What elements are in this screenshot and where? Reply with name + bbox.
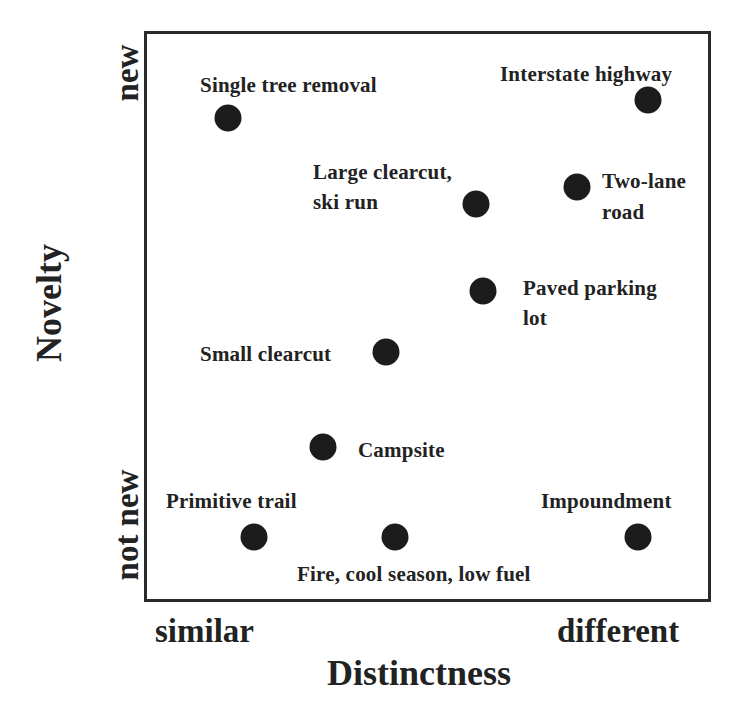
x-axis-title: Distinctness: [327, 653, 511, 693]
y-axis-title: Novelty: [29, 244, 69, 362]
y-low-label: not new: [109, 470, 145, 581]
point-small-clearcut: [373, 339, 400, 366]
point-campsite: [310, 434, 337, 461]
point-single-tree-removal: [215, 105, 242, 132]
y-high-label: new: [109, 45, 145, 102]
label-impoundment: Impoundment: [541, 486, 672, 516]
x-low-label: similar: [155, 613, 254, 649]
point-two-lane-road: [564, 174, 591, 201]
point-impoundment: [625, 524, 652, 551]
label-paved-parking-line1: Paved parking: [523, 273, 657, 303]
label-campsite: Campsite: [358, 435, 445, 465]
label-interstate-highway: Interstate highway: [500, 59, 672, 89]
label-two-lane-road-line2: road: [602, 197, 644, 227]
point-interstate-highway: [635, 87, 662, 114]
label-fire: Fire, cool season, low fuel: [297, 559, 531, 589]
point-primitive-trail: [241, 524, 268, 551]
x-high-label: different: [557, 613, 679, 649]
point-paved-parking-lot: [470, 278, 497, 305]
label-large-clearcut-line2: ski run: [313, 187, 378, 217]
label-primitive-trail: Primitive trail: [166, 486, 297, 516]
label-large-clearcut-line1: Large clearcut,: [313, 157, 452, 187]
label-small-clearcut: Small clearcut: [200, 339, 331, 369]
label-paved-parking-line2: lot: [523, 303, 547, 333]
label-single-tree-removal: Single tree removal: [200, 70, 377, 100]
point-fire: [382, 524, 409, 551]
label-two-lane-road-line1: Two-lane: [602, 166, 686, 196]
point-large-clearcut: [463, 191, 490, 218]
